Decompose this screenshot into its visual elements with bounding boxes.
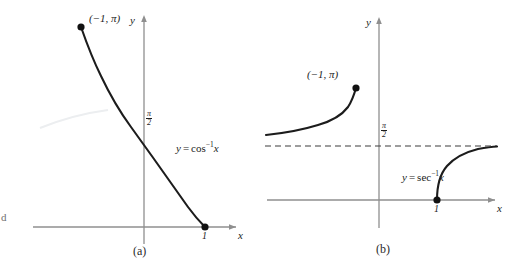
panel-b-y-axis-arrow: [376, 17, 382, 24]
panel-a-equation-exponent: −1: [206, 140, 214, 149]
panel-a-y-axis-label: y: [130, 15, 135, 26]
panel-b-y-axis-label: y: [366, 17, 371, 28]
figure-canvas: [0, 0, 513, 270]
scan-artifact-arc: [40, 110, 108, 128]
panel-a-tick-denominator: 2: [146, 118, 152, 127]
page-edge-letter: d: [1, 212, 7, 223]
panel-b-curve-right-branch: [437, 147, 497, 201]
panel-b-equation-arg: x: [439, 171, 444, 183]
panel-a-equation-equals: =: [181, 142, 191, 154]
panel-b-point-label: (−1, π): [307, 69, 338, 80]
panel-b-curve-left-branch: [266, 88, 356, 135]
panel-b-endpoint-left: [352, 84, 359, 91]
panel-b-y-tick-pi-over-2: π 2: [381, 122, 387, 140]
panel-a-equation-arg: x: [214, 142, 219, 154]
panel-a-tick-numerator: π: [146, 110, 152, 118]
panel-a-endpoint-left: [77, 23, 84, 30]
panel-b-caption: (b): [376, 243, 390, 255]
panel-b-equation-exponent: −1: [431, 169, 439, 178]
panel-b-tick-numerator: π: [381, 122, 387, 130]
panel-b-x-tick-label: 1: [434, 204, 439, 214]
panel-b-x-axis-arrow: [488, 197, 495, 203]
panel-a-x-axis-label: x: [238, 230, 243, 241]
panel-a-caption: (a): [133, 245, 146, 257]
panel-a-y-axis-arrow: [141, 15, 147, 22]
panel-b-equation-fn: sec: [417, 171, 431, 183]
panel-b-equation-label: y=sec−1x: [402, 170, 444, 183]
panel-a-x-tick-label: 1: [202, 231, 207, 241]
panel-a-y-tick-pi-over-2: π 2: [146, 110, 152, 128]
panel-a-equation-label: y=cos−1x: [176, 141, 219, 154]
panel-a-axes: [33, 15, 236, 244]
panel-a-equation-fn: cos: [191, 142, 206, 154]
panel-a-x-axis-arrow: [229, 224, 236, 230]
panel-a-curve-arccos: [81, 27, 205, 227]
figure-root: d (−1, π) y x π 2 1 y=cos−1x (a) (−1, π)…: [0, 0, 513, 270]
panel-a-point-label: (−1, π): [89, 13, 120, 24]
panel-b-x-axis-label: x: [497, 203, 502, 214]
panel-b-tick-denominator: 2: [381, 130, 387, 139]
panel-b-equation-equals: =: [407, 171, 417, 183]
